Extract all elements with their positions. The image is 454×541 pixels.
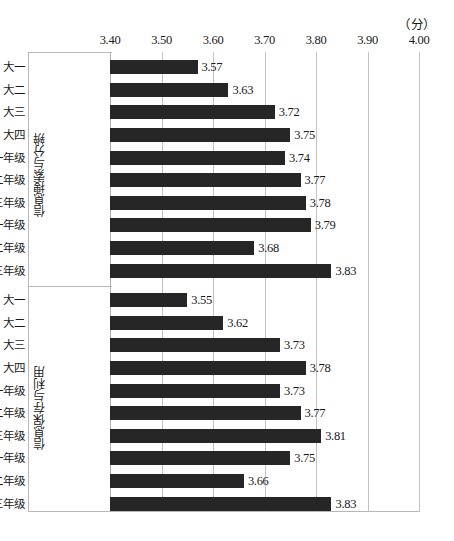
bar	[110, 218, 311, 232]
bar	[110, 151, 285, 165]
bar-row: 博士二年级3.68	[28, 237, 419, 260]
bar-row: 硕士一年级3.74	[28, 146, 419, 169]
bar	[110, 429, 321, 443]
bar-chart: （分） 3.403.503.603.703.803.904.00 大一3.57大…	[0, 0, 454, 541]
category-label: 大二	[0, 83, 28, 97]
bar-value-label: 3.83	[335, 497, 356, 511]
category-label: 硕士三年级	[0, 429, 28, 443]
x-tick-label: 3.80	[306, 33, 327, 48]
bar-row: 硕士三年级3.81	[28, 425, 419, 448]
bar-row: 博士二年级3.66	[28, 470, 419, 493]
category-label: 硕士三年级	[0, 196, 28, 210]
bar-value-label: 3.72	[279, 105, 300, 119]
bar-value-label: 3.75	[294, 128, 315, 142]
category-label: 硕士二年级	[0, 173, 28, 187]
category-label: 硕士一年级	[0, 384, 28, 398]
bar-rows: 大一3.57大二3.63大三3.72大四3.75硕士一年级3.74硕士二年级3.…	[28, 52, 419, 512]
bar-value-label: 3.73	[284, 338, 305, 352]
bar-row: 大四3.75	[28, 124, 419, 147]
bar	[110, 338, 280, 352]
bar	[110, 451, 290, 465]
group-label-information-search: 信息搜索与分辨	[31, 121, 48, 217]
bar-value-label: 3.83	[335, 264, 356, 278]
x-tick-label: 3.60	[203, 33, 224, 48]
bar	[110, 497, 331, 511]
bar-row: 大三3.73	[28, 334, 419, 357]
category-label: 硕士二年级	[0, 406, 28, 420]
x-tick-label: 3.50	[151, 33, 172, 48]
category-label: 大四	[0, 361, 28, 375]
x-tick-label: 3.70	[254, 33, 275, 48]
bar-row: 大四3.78	[28, 357, 419, 380]
x-tick-label: 3.90	[357, 33, 378, 48]
category-label: 博士二年级	[0, 241, 28, 255]
bar-row: 大一3.55	[28, 289, 419, 312]
axis-unit-label: （分）	[398, 14, 436, 33]
bar-row: 硕士三年级3.78	[28, 192, 419, 215]
bar-row: 硕士一年级3.73	[28, 379, 419, 402]
x-axis-tick-labels: 3.403.503.603.703.803.904.00	[0, 33, 454, 49]
bar-row: 博士一年级3.79	[28, 214, 419, 237]
bar	[110, 264, 331, 278]
x-tick-label: 3.40	[100, 33, 121, 48]
bar-row: 博士三年级3.83	[28, 492, 419, 515]
category-label: 硕士一年级	[0, 151, 28, 165]
bar-value-label: 3.77	[305, 173, 326, 187]
bar-value-label: 3.77	[305, 406, 326, 420]
category-label: 大二	[0, 316, 28, 330]
bar-value-label: 3.81	[325, 429, 346, 443]
bar	[110, 384, 280, 398]
x-tick-label: 4.00	[409, 33, 430, 48]
category-label: 大一	[0, 293, 28, 307]
plot-area: 大一3.57大二3.63大三3.72大四3.75硕士一年级3.74硕士二年级3.…	[28, 52, 419, 512]
bar	[110, 83, 228, 97]
category-label: 大四	[0, 128, 28, 142]
bar	[110, 361, 306, 375]
category-label: 大三	[0, 105, 28, 119]
bar-row: 硕士二年级3.77	[28, 402, 419, 425]
bar	[110, 128, 290, 142]
bar-value-label: 3.63	[232, 83, 253, 97]
category-label: 博士一年级	[0, 451, 28, 465]
category-label: 博士三年级	[0, 264, 28, 278]
category-label: 大三	[0, 338, 28, 352]
bar-value-label: 3.68	[258, 241, 279, 255]
bar-value-label: 3.57	[202, 60, 223, 74]
bar-value-label: 3.74	[289, 151, 310, 165]
bar-row: 大二3.63	[28, 79, 419, 102]
bar	[110, 196, 306, 210]
bar-value-label: 3.62	[227, 316, 248, 330]
bar-value-label: 3.73	[284, 384, 305, 398]
bar-value-label: 3.66	[248, 474, 269, 488]
bar-value-label: 3.55	[191, 293, 212, 307]
category-label: 博士一年级	[0, 218, 28, 232]
bar-value-label: 3.78	[310, 196, 331, 210]
bar	[110, 60, 198, 74]
bar-row: 博士三年级3.83	[28, 259, 419, 282]
bar-row: 大二3.62	[28, 312, 419, 335]
bar	[110, 474, 244, 488]
bar-value-label: 3.75	[294, 451, 315, 465]
category-label: 博士三年级	[0, 497, 28, 511]
bar	[110, 316, 223, 330]
bar-value-label: 3.79	[315, 218, 336, 232]
bar-row: 硕士二年级3.77	[28, 169, 419, 192]
bar	[110, 105, 275, 119]
group-label-information-storage: 信息保存与利用	[31, 354, 48, 450]
bar	[110, 241, 254, 255]
category-label: 大一	[0, 60, 28, 74]
bar	[110, 406, 301, 420]
bar	[110, 173, 301, 187]
gridline-4.00	[419, 52, 420, 512]
bar-value-label: 3.78	[310, 361, 331, 375]
bar-row: 博士一年级3.75	[28, 447, 419, 470]
bar-row: 大一3.57	[28, 56, 419, 79]
category-label: 博士二年级	[0, 474, 28, 488]
bar-row: 大三3.72	[28, 101, 419, 124]
bar	[110, 293, 187, 307]
